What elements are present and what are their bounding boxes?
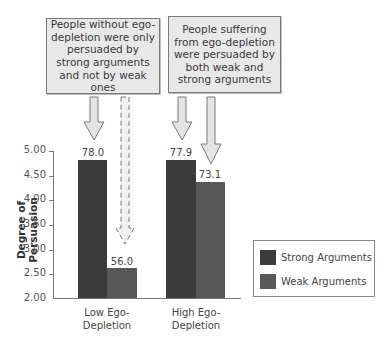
dashed-arrow-down-icon bbox=[114, 96, 136, 246]
y-tick-mark bbox=[49, 200, 54, 201]
legend-swatch-strong bbox=[260, 250, 276, 265]
y-tick-mark bbox=[49, 274, 54, 275]
callout-text: People without ego-depletion were only p… bbox=[50, 18, 156, 94]
bar-value-label: 77.9 bbox=[161, 147, 201, 158]
y-tick-label: 3.50 bbox=[14, 218, 46, 229]
y-tick-mark bbox=[49, 176, 54, 177]
legend: Strong Arguments Weak Arguments bbox=[253, 240, 375, 297]
bar-high-weak bbox=[196, 182, 225, 298]
callout-text: People suffering from ego-depletion were… bbox=[172, 23, 277, 86]
legend-swatch-weak bbox=[260, 274, 276, 289]
callout-low-ego-depletion: People without ego-depletion were only p… bbox=[46, 18, 160, 94]
arrow-down-icon bbox=[83, 96, 105, 142]
legend-item-weak: Weak Arguments bbox=[260, 274, 366, 289]
bar-value-label: 56.0 bbox=[102, 256, 142, 267]
long-arrow-down-icon bbox=[200, 96, 222, 166]
y-tick-mark bbox=[49, 151, 54, 152]
y-tick-label: 4.00 bbox=[14, 193, 46, 204]
bar-value-label: 78.0 bbox=[73, 147, 113, 158]
y-tick-label: 2.00 bbox=[14, 292, 46, 303]
x-category-line: Low Ego- bbox=[67, 306, 147, 319]
y-tick-label: 4.50 bbox=[14, 169, 46, 180]
y-tick-mark bbox=[49, 225, 54, 226]
y-tick-label: 3.00 bbox=[14, 243, 46, 254]
x-category-line: Depletion bbox=[156, 319, 236, 332]
bar-value-label: 73.1 bbox=[190, 169, 230, 180]
x-axis-line bbox=[53, 298, 241, 299]
bar-high-strong bbox=[166, 160, 196, 298]
y-tick-label: 2.50 bbox=[14, 267, 46, 278]
y-tick-label: 5.00 bbox=[14, 144, 46, 155]
legend-item-strong: Strong Arguments bbox=[260, 250, 372, 265]
x-category-low: Low Ego- Depletion bbox=[67, 306, 147, 332]
arrow-down-icon bbox=[171, 96, 193, 142]
x-category-high: High Ego- Depletion bbox=[156, 306, 236, 332]
legend-label: Weak Arguments bbox=[281, 276, 366, 287]
x-category-line: High Ego- bbox=[156, 306, 236, 319]
bar-low-weak bbox=[107, 268, 137, 298]
x-category-line: Depletion bbox=[67, 319, 147, 332]
y-tick-mark bbox=[49, 250, 54, 251]
callout-high-ego-depletion: People suffering from ego-depletion were… bbox=[168, 16, 281, 93]
legend-label: Strong Arguments bbox=[281, 252, 372, 263]
bar-low-strong bbox=[78, 160, 107, 298]
